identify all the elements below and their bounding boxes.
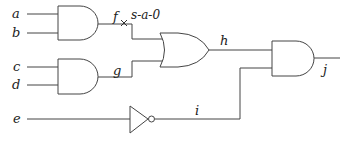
net-label-i: i <box>195 103 199 118</box>
and-gate-2 <box>58 59 98 94</box>
input-label-e: e <box>13 111 21 126</box>
x-mark-icon <box>121 20 127 26</box>
input-label-d: d <box>12 77 20 92</box>
logic-circuit-diagram: a b c d e f g s-a-0 h j i <box>0 0 356 148</box>
wire-g <box>98 61 164 77</box>
input-label-b: b <box>12 25 20 40</box>
fault-label: s-a-0 <box>131 8 160 22</box>
net-label-g: g <box>113 63 121 78</box>
net-label-j: j <box>320 62 327 77</box>
net-label-f: f <box>112 9 120 24</box>
input-label-c: c <box>13 59 21 74</box>
and-gate-1 <box>58 6 98 40</box>
net-label-h: h <box>220 33 228 48</box>
input-label-a: a <box>12 6 20 21</box>
or-gate <box>160 33 209 67</box>
wire-i <box>155 68 272 119</box>
inverter-bubble <box>149 116 155 122</box>
not-gate <box>130 106 148 133</box>
and-gate-3 <box>272 41 314 76</box>
wire-f <box>98 24 164 39</box>
